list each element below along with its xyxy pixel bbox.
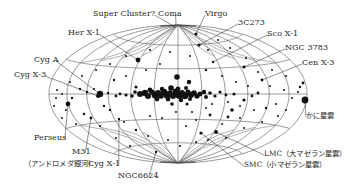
x-ray-source-dot xyxy=(148,88,153,93)
x-ray-source-dot xyxy=(291,97,293,99)
x-ray-source-dot xyxy=(55,97,57,99)
x-ray-source-dot xyxy=(103,105,105,107)
x-ray-source-dot xyxy=(61,117,63,119)
x-ray-source-dot xyxy=(174,74,180,80)
x-ray-source-dot xyxy=(83,113,85,115)
x-ray-source-dot xyxy=(69,81,71,83)
x-ray-source-dot xyxy=(123,121,125,123)
x-ray-source-dot xyxy=(277,115,279,117)
x-ray-source-dot xyxy=(299,86,301,88)
x-ray-source-dot xyxy=(179,98,183,102)
label-ngc6624: NGC6624 xyxy=(118,172,159,180)
x-ray-source-dot xyxy=(213,94,216,97)
x-ray-source-dot xyxy=(136,58,141,63)
leader-line-lmc xyxy=(216,132,264,155)
x-ray-source-dot xyxy=(199,131,202,134)
x-ray-source-dot xyxy=(225,137,227,139)
label-virgo: Virgo xyxy=(205,10,227,18)
label-cyg-x3: Cyg X-3 xyxy=(14,71,46,79)
x-ray-source-dot xyxy=(257,92,260,95)
x-ray-source-dot xyxy=(168,85,174,91)
x-ray-source-dot xyxy=(119,93,122,96)
x-ray-source-dot xyxy=(242,98,245,101)
x-ray-source-dot xyxy=(229,47,231,49)
x-ray-source-dot xyxy=(202,90,206,94)
x-ray-source-dot xyxy=(261,79,264,82)
x-ray-source-dot xyxy=(245,57,247,59)
x-ray-source-dot xyxy=(208,91,212,95)
x-ray-source-dot xyxy=(257,71,259,73)
x-ray-source-dot xyxy=(239,105,241,107)
x-ray-source-dot xyxy=(134,85,137,88)
x-ray-source-dot xyxy=(125,55,127,57)
x-ray-source-dot xyxy=(247,85,249,87)
label-lmc: LMC（大マゼラン星雲） xyxy=(264,150,346,157)
x-ray-source-dot xyxy=(135,129,137,131)
x-ray-source-dot xyxy=(275,103,277,105)
x-ray-source-dot xyxy=(207,139,209,141)
x-ray-source-dot xyxy=(166,97,171,102)
x-ray-source-dot xyxy=(130,94,134,98)
x-ray-source-dot xyxy=(147,135,149,137)
x-ray-source-dot xyxy=(195,119,197,121)
label-smc: SMC（小マゼラン星雲） xyxy=(244,161,326,168)
x-ray-source-dot xyxy=(198,92,203,97)
x-ray-source-dot xyxy=(232,92,235,95)
x-ray-source-dot xyxy=(79,88,81,90)
x-ray-source-dot xyxy=(90,117,93,120)
x-ray-source-dot xyxy=(107,92,109,94)
x-ray-source-dot xyxy=(195,141,197,143)
x-ray-source-dot xyxy=(205,107,207,109)
x-ray-source-dot xyxy=(235,81,237,83)
x-ray-source-dot xyxy=(184,86,188,90)
leader-line-virgo xyxy=(196,15,205,34)
label-crab: かに星雲 xyxy=(306,112,334,119)
x-ray-source-dot xyxy=(214,130,218,134)
x-ray-source-dot xyxy=(81,75,83,77)
x-ray-source-dot xyxy=(125,75,127,77)
declination-curve xyxy=(178,25,276,63)
x-ray-source-dot xyxy=(145,69,147,71)
label-perseus: Perseus xyxy=(34,134,66,142)
x-ray-source-dot xyxy=(211,103,213,105)
x-ray-source-dot xyxy=(221,75,223,77)
x-ray-source-dot xyxy=(227,116,230,119)
x-ray-source-dot xyxy=(191,111,193,113)
x-ray-source-dot xyxy=(221,123,223,125)
x-ray-source-dot xyxy=(95,69,97,71)
x-ray-source-dot xyxy=(118,118,120,120)
x-ray-source-dot xyxy=(297,91,299,93)
x-ray-sky-map: Super Cluster?ComaVirgo3C273Her X-1Sco X… xyxy=(0,0,357,189)
x-ray-source-dot xyxy=(271,69,273,71)
x-ray-source-dot xyxy=(218,90,221,93)
x-ray-source-dot xyxy=(113,79,115,81)
x-ray-source-dot xyxy=(243,127,245,129)
x-ray-source-dot xyxy=(115,95,118,98)
x-ray-source-dot xyxy=(225,94,228,97)
x-ray-source-dot xyxy=(53,105,55,107)
x-ray-source-dot xyxy=(187,80,191,84)
x-ray-source-dot xyxy=(185,125,187,127)
x-ray-source-dot xyxy=(283,89,285,91)
x-ray-source-dot xyxy=(133,90,137,94)
x-ray-source-dot xyxy=(155,97,160,102)
x-ray-source-dot xyxy=(93,88,95,90)
x-ray-source-dot xyxy=(160,87,164,91)
declination-curve xyxy=(80,125,178,163)
x-ray-source-dot xyxy=(167,139,169,141)
x-ray-source-dot xyxy=(227,101,229,103)
x-ray-source-dot xyxy=(175,111,177,113)
x-ray-source-dot xyxy=(253,109,255,111)
x-ray-source-dot xyxy=(197,43,200,46)
x-ray-source-dot xyxy=(242,65,245,68)
leader-line-3c273 xyxy=(199,24,238,45)
x-ray-source-dot xyxy=(109,63,111,65)
leader-line-cyg-x3 xyxy=(45,76,98,96)
x-ray-source-dot xyxy=(188,97,192,101)
x-ray-source-dot xyxy=(204,95,208,99)
x-ray-source-dot xyxy=(129,145,131,147)
x-ray-source-dot xyxy=(61,93,63,95)
x-ray-source-dot xyxy=(205,69,207,71)
x-ray-source-dot xyxy=(161,117,163,119)
x-ray-source-dot xyxy=(96,94,100,98)
